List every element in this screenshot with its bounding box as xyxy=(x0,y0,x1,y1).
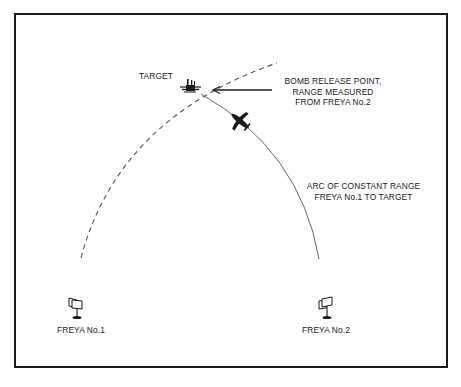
bomber-aircraft-icon xyxy=(225,106,256,137)
range-arc-freya1 xyxy=(201,94,319,259)
arc-label-line-1: ARC OF CONSTANT RANGE xyxy=(291,181,436,192)
arrow-left-icon xyxy=(213,87,272,94)
bomb-release-line-3: FROM FREYA No.2 xyxy=(268,97,398,108)
arc-label: ARC OF CONSTANT RANGE FREYA No.1 TO TARG… xyxy=(291,181,436,202)
target-label-text: TARGET xyxy=(139,71,173,82)
range-arc-freya2 xyxy=(81,63,277,258)
freya2-label-text: FREYA No.2 xyxy=(293,325,359,336)
target-label: TARGET xyxy=(139,71,173,82)
target-ship-icon xyxy=(180,79,201,92)
bomb-release-line-1: BOMB RELEASE POINT, xyxy=(268,76,398,87)
arc-label-line-2: FREYA No.1 TO TARGET xyxy=(291,192,436,203)
freya2-label: FREYA No.2 xyxy=(293,325,359,336)
freya1-label: FREYA No.1 xyxy=(48,325,114,336)
radar-antenna-icon xyxy=(319,297,332,319)
bomb-release-line-2: RANGE MEASURED xyxy=(268,87,398,98)
freya1-label-text: FREYA No.1 xyxy=(48,325,114,336)
bomb-release-label: BOMB RELEASE POINT, RANGE MEASURED FROM … xyxy=(268,76,398,108)
radar-antenna-icon xyxy=(69,298,82,319)
